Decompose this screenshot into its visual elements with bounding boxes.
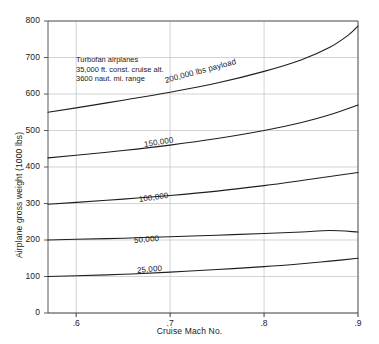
annotation-line: Turbofan airplanes bbox=[76, 55, 164, 65]
y-axis-tick-label: 0 bbox=[10, 308, 40, 317]
y-axis-tick-label: 600 bbox=[10, 89, 40, 98]
x-axis-title: Cruise Mach No. bbox=[0, 326, 379, 336]
curve-label: 50,000 bbox=[134, 233, 160, 244]
chart-figure: 0100200300400500600700800 .6.7.8.9 200,0… bbox=[0, 0, 379, 344]
plot-canvas bbox=[0, 0, 379, 344]
annotation-line: 3600 naut. mi. range bbox=[76, 74, 164, 84]
chart-annotation: Turbofan airplanes35,000 ft. const. crui… bbox=[76, 55, 164, 84]
annotation-line: 35,000 ft. const. cruise alt. bbox=[76, 65, 164, 75]
y-axis-tick-label: 100 bbox=[10, 272, 40, 281]
y-axis-tick-label: 800 bbox=[10, 16, 40, 25]
curve-label: 25,000 bbox=[137, 263, 163, 274]
y-tick-marks bbox=[44, 21, 48, 313]
y-axis-tick-label: 700 bbox=[10, 53, 40, 62]
x-tick-marks bbox=[76, 313, 358, 317]
y-axis-title: Airplane gross weight (1000 lbs) bbox=[14, 132, 24, 258]
